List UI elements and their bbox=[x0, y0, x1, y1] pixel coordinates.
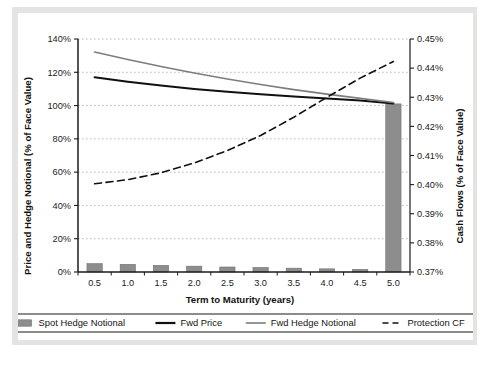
line-series-layer bbox=[95, 52, 394, 184]
bar bbox=[120, 264, 135, 272]
legend-label: Fwd Hedge Notional bbox=[271, 317, 356, 328]
y-tick-label: 140% bbox=[48, 34, 72, 44]
x-tick-label: 5.0 bbox=[387, 278, 400, 288]
y-tick-label: 100% bbox=[48, 101, 72, 111]
x-tick-label: 3.5 bbox=[287, 278, 300, 288]
bar bbox=[253, 268, 268, 272]
y-tick-label: 60% bbox=[53, 167, 71, 177]
y2-tick-label: 0.45% bbox=[417, 34, 443, 44]
y-tick-label: 20% bbox=[53, 234, 71, 244]
y2-tick-label: 0.41% bbox=[417, 151, 443, 161]
x-axis-tick-labels: 0.51.01.52.02.53.03.54.04.55.0 bbox=[88, 278, 400, 288]
gridlines bbox=[78, 39, 410, 239]
x-axis-title: Term to Maturity (years) bbox=[186, 294, 295, 305]
y2-tick-label: 0.39% bbox=[417, 209, 443, 219]
y-tick-label: 80% bbox=[53, 134, 71, 144]
axes-frame bbox=[74, 39, 414, 276]
bar bbox=[153, 265, 168, 272]
legend-marker-bar-swatch bbox=[18, 320, 32, 326]
y2-tick-label: 0.40% bbox=[417, 180, 443, 190]
y2-axis-title: Cash Flows (% of Face Value) bbox=[454, 109, 465, 244]
x-tick-label: 0.5 bbox=[88, 278, 101, 288]
figure-root: 0%20%40%60%80%100%120%140% 0.37%0.38%0.3… bbox=[0, 0, 489, 374]
chart-legend: Spot Hedge NotionalFwd PriceFwd Hedge No… bbox=[18, 314, 473, 332]
legend-label: Fwd Price bbox=[180, 317, 222, 328]
x-tick-label: 2.0 bbox=[188, 278, 201, 288]
x-tick-label: 3.0 bbox=[254, 278, 267, 288]
x-tick-label: 2.5 bbox=[221, 278, 234, 288]
y2-axis-tick-labels: 0.37%0.38%0.39%0.40%0.41%0.42%0.43%0.44%… bbox=[417, 34, 443, 277]
line-protection-cf bbox=[95, 61, 394, 183]
x-tick-label: 4.5 bbox=[354, 278, 367, 288]
x-tick-label: 1.5 bbox=[155, 278, 168, 288]
chart-canvas: 0%20%40%60%80%100%120%140% 0.37%0.38%0.3… bbox=[18, 13, 473, 340]
y2-tick-label: 0.43% bbox=[417, 93, 443, 103]
line-fwd-hedge-notional bbox=[95, 52, 394, 103]
bar bbox=[87, 264, 102, 272]
bar-series-spot-hedge-notional bbox=[87, 104, 401, 272]
bar bbox=[187, 266, 202, 272]
bar bbox=[220, 267, 235, 272]
y-tick-label: 120% bbox=[48, 68, 72, 78]
y-tick-label: 40% bbox=[53, 201, 71, 211]
chart-card: 0%20%40%60%80%100%120%140% 0.37%0.38%0.3… bbox=[18, 13, 473, 340]
bar bbox=[386, 104, 401, 272]
y-axis-title: Price and Hedge Notional (% of Face Valu… bbox=[22, 77, 33, 275]
y2-tick-label: 0.42% bbox=[417, 122, 443, 132]
y2-tick-label: 0.44% bbox=[417, 63, 443, 73]
y-axis-tick-labels: 0%20%40%60%80%100%120%140% bbox=[48, 34, 72, 277]
legend-label: Protection CF bbox=[407, 317, 465, 328]
y2-tick-label: 0.37% bbox=[417, 267, 443, 277]
x-tick-label: 1.0 bbox=[121, 278, 134, 288]
page-caption-smudge bbox=[40, 352, 300, 366]
y2-tick-label: 0.38% bbox=[417, 238, 443, 248]
legend-label: Spot Hedge Notional bbox=[39, 317, 126, 328]
y-tick-label: 0% bbox=[58, 267, 71, 277]
x-tick-label: 4.0 bbox=[321, 278, 334, 288]
